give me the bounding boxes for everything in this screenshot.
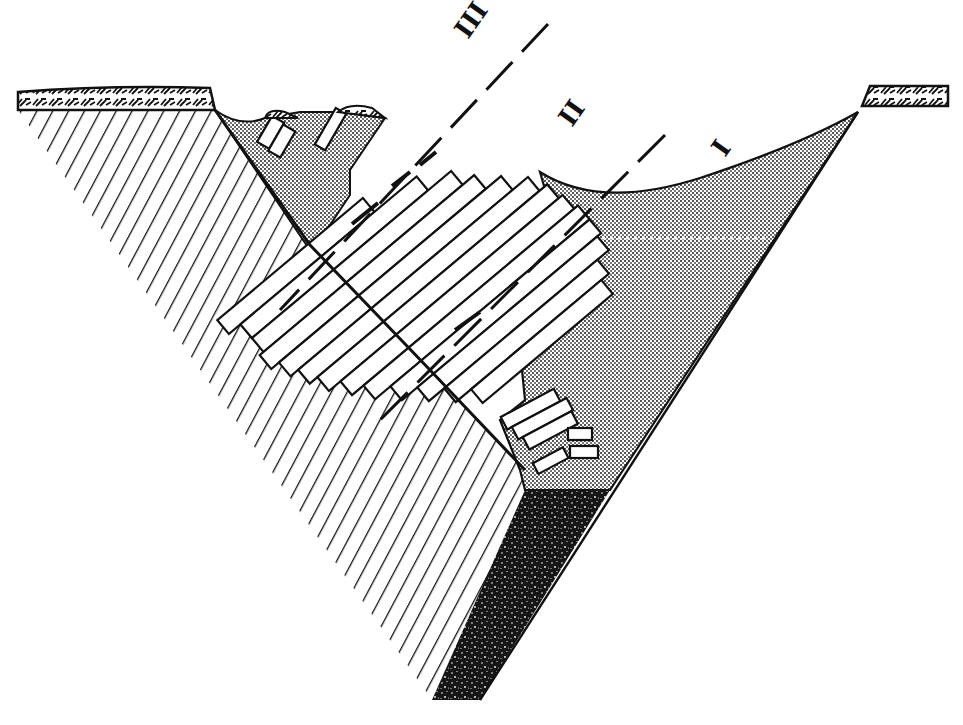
cap-layer-right <box>862 86 948 106</box>
label-II: II <box>552 94 591 131</box>
cross-section-figure: III II I <box>0 0 963 725</box>
label-I: I <box>705 134 737 161</box>
roman-labels: III II I <box>448 0 737 161</box>
label-III: III <box>448 0 494 43</box>
cross-section-svg: III II I <box>0 0 963 725</box>
